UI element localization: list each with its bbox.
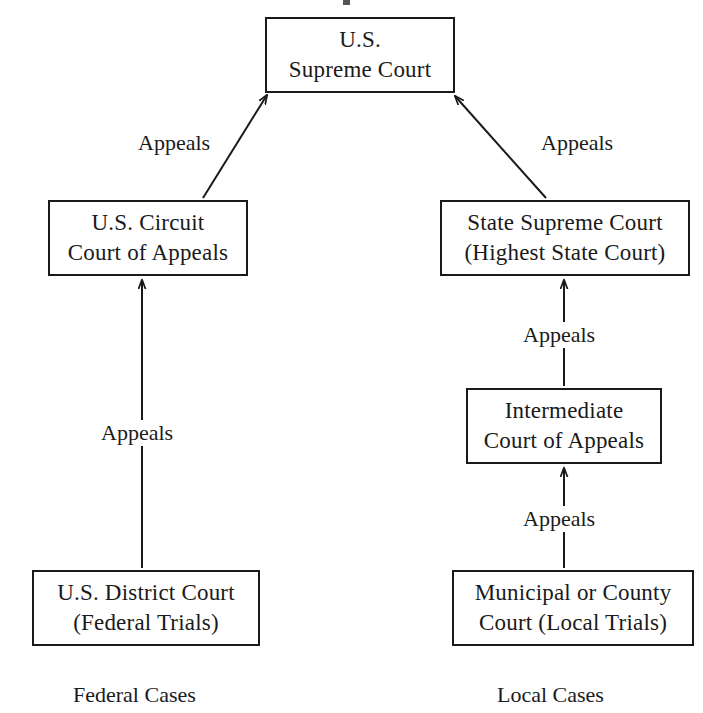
node-label-line2: Supreme Court [289,55,432,85]
node-municipal-or-county-court: Municipal or County Court (Local Trials) [452,570,694,646]
node-label-line2: Court of Appeals [68,238,228,268]
caption-federal-cases: Federal Cases [73,684,196,706]
node-label-line1: Intermediate [505,396,624,426]
edge-arrow-state-supreme-to-supreme [455,96,546,198]
node-intermediate-court-of-appeals: Intermediate Court of Appeals [466,388,662,464]
edge-label-intermediate-to-state-supreme: Appeals [518,322,600,348]
node-label-line1: Municipal or County [475,578,672,608]
node-label-line2: Court of Appeals [484,426,644,456]
edge-label-municipal-to-intermediate: Appeals [518,506,600,532]
cropped-title-descender-artifact [343,0,350,5]
caption-local-cases: Local Cases [497,684,604,706]
edge-label-circuit-to-supreme: Appeals [133,130,215,156]
node-state-supreme-court: State Supreme Court (Highest State Court… [440,200,690,276]
node-label-line2: (Federal Trials) [73,608,219,638]
node-label-line2: (Highest State Court) [465,238,666,268]
node-us-circuit-court-of-appeals: U.S. Circuit Court of Appeals [48,200,248,276]
node-us-district-court: U.S. District Court (Federal Trials) [32,570,260,646]
node-label-line1: U.S. Circuit [92,208,205,238]
node-label-line1: State Supreme Court [467,208,662,238]
node-label-line2: Court (Local Trials) [479,608,667,638]
node-label-line1: U.S. [339,25,381,55]
edge-label-state-supreme-to-supreme: Appeals [536,130,618,156]
node-us-supreme-court: U.S. Supreme Court [265,17,455,93]
court-system-hierarchy-diagram: U.S. Supreme Court U.S. Circuit Court of… [0,0,703,713]
node-label-line1: U.S. District Court [57,578,235,608]
edge-label-district-to-circuit: Appeals [96,420,178,446]
